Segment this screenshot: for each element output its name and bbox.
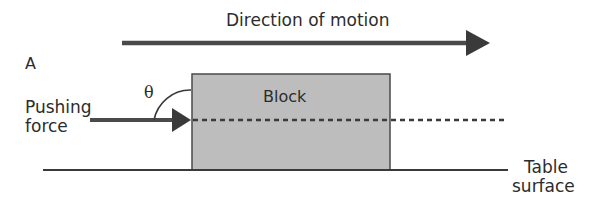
direction-arrow-icon [122,30,490,56]
angle-theta-label: θ [144,83,154,102]
table-surface-label-line1: Table [524,158,568,177]
pushing-force-label-line1: Pushing [25,98,92,117]
table-surface-label-line2: surface [512,177,575,196]
pushing-force-arrow-icon [90,108,191,132]
direction-of-motion-label: Direction of motion [226,11,390,30]
panel-label: A [25,54,36,73]
pushing-force-label-line2: force [25,117,68,136]
block-label: Block [263,87,306,106]
